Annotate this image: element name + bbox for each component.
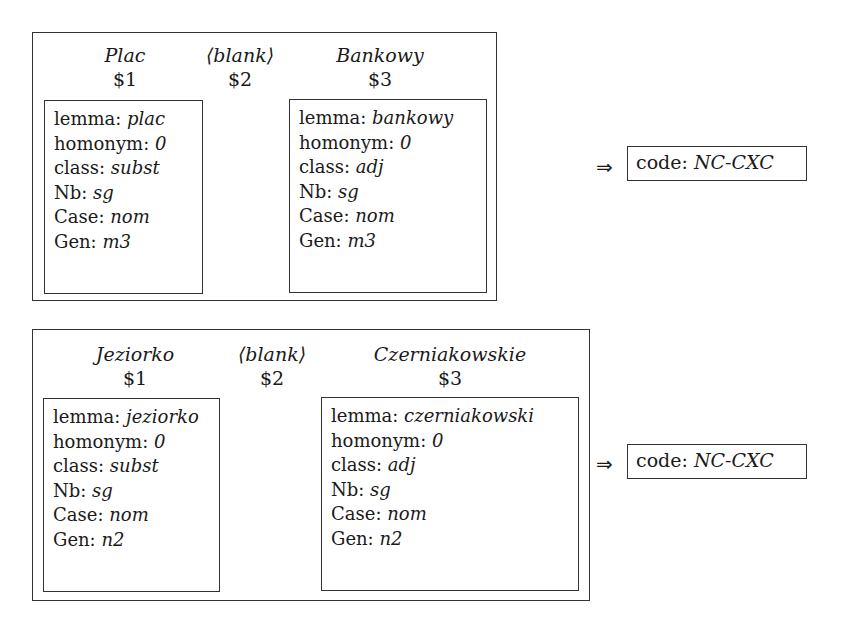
feature-row: Gen: m3 [299,229,486,254]
feature-row: lemma: jeziorko [53,405,219,430]
token-word: Plac [60,43,190,67]
rule-2-token-2: ⟨blank⟩ $2 [222,342,322,390]
feature-row: Case: nom [53,503,219,528]
rule-1-token-1: Plac $1 [60,43,190,91]
rule-2-token-1: Jeziorko $1 [65,342,205,390]
rule-2-result-code: code: NC-CXC [627,444,807,479]
feature-row: class: adj [299,155,486,180]
feature-row: Gen: n2 [331,527,578,552]
token-word: ⟨blank⟩ [222,342,322,366]
feature-row: lemma: bankowy [299,106,486,131]
feature-row: Gen: m3 [54,230,202,255]
rule-1-feature-structure-3: lemma: bankowy homonym: 0 class: adj Nb:… [289,99,487,293]
feature-row: Case: nom [299,204,486,229]
feature-row: Nb: sg [331,478,578,503]
feature-row: lemma: czerniakowski [331,404,578,429]
feature-row: Nb: sg [54,181,202,206]
feature-row: class: adj [331,453,578,478]
feature-row: Gen: n2 [53,528,219,553]
feature-row: Case: nom [331,502,578,527]
rule-2-feature-structure-3: lemma: czerniakowski homonym: 0 class: a… [321,397,579,591]
feature-row: homonym: 0 [53,430,219,455]
feature-row: Case: nom [54,205,202,230]
rule-1-token-2: ⟨blank⟩ $2 [190,43,290,91]
feature-row: homonym: 0 [54,132,202,157]
token-variable: $3 [330,366,570,390]
token-word: ⟨blank⟩ [190,43,290,67]
feature-row: homonym: 0 [299,131,486,156]
token-word: Czerniakowskie [330,342,570,366]
feature-row: Nb: sg [299,180,486,205]
rule-1-feature-structure-1: lemma: plac homonym: 0 class: subst Nb: … [44,100,203,294]
token-variable: $2 [222,366,322,390]
feature-row: homonym: 0 [331,429,578,454]
token-variable: $1 [60,67,190,91]
token-variable: $1 [65,366,205,390]
token-word: Jeziorko [65,342,205,366]
rule-2-token-3: Czerniakowskie $3 [330,342,570,390]
token-variable: $2 [190,67,290,91]
rule-1-token-3: Bankowy $3 [300,43,460,91]
rule-2-arrow-icon: ⇒ [596,452,613,476]
feature-row: lemma: plac [54,107,202,132]
rule-1-result-code: code: NC-CXC [627,146,807,181]
token-word: Bankowy [300,43,460,67]
feature-row: class: subst [53,454,219,479]
feature-row: class: subst [54,156,202,181]
feature-row: Nb: sg [53,479,219,504]
rule-2-feature-structure-1: lemma: jeziorko homonym: 0 class: subst … [43,398,220,592]
token-variable: $3 [300,67,460,91]
rule-1-arrow-icon: ⇒ [596,155,613,179]
